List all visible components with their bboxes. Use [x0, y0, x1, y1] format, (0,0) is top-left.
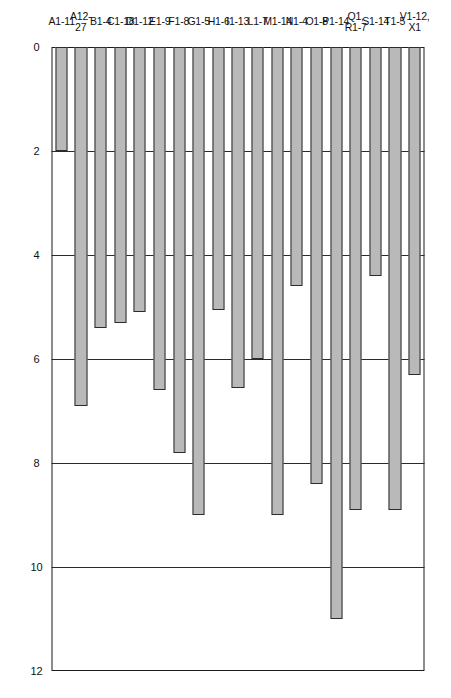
- bar: [133, 47, 145, 312]
- tick-label: 0: [22, 41, 50, 53]
- tick-label: 6: [22, 353, 50, 365]
- tick-label: 2: [22, 145, 50, 157]
- rotated-page-stage: 024681012 A1-11A12- 27B1-4C1-18D1-12E1-9…: [0, 0, 451, 698]
- gridline: [51, 567, 424, 568]
- bar: [94, 47, 106, 328]
- tick-label: 10: [22, 561, 50, 573]
- bar: [114, 47, 126, 323]
- bar: [74, 47, 86, 406]
- category-label: V1-12, X1: [392, 12, 436, 32]
- bar: [271, 47, 283, 515]
- tick-label: 8: [22, 457, 50, 469]
- bar: [153, 47, 165, 390]
- bar: [192, 47, 204, 515]
- bar: [212, 47, 224, 310]
- bar: [408, 47, 420, 375]
- tick-label: 4: [22, 249, 50, 261]
- bar: [330, 47, 342, 619]
- bar: [369, 47, 381, 276]
- bar: [55, 47, 67, 151]
- bar: [349, 47, 361, 510]
- bar: [388, 47, 400, 510]
- bar: [173, 47, 185, 453]
- bar-chart-figure: 024681012 A1-11A12- 27B1-4C1-18D1-12E1-9…: [0, 0, 451, 698]
- bar: [231, 47, 243, 388]
- tick-label: 12: [22, 665, 50, 677]
- gridline: [51, 463, 424, 464]
- bar: [310, 47, 322, 484]
- bar: [251, 47, 263, 359]
- bar: [290, 47, 302, 286]
